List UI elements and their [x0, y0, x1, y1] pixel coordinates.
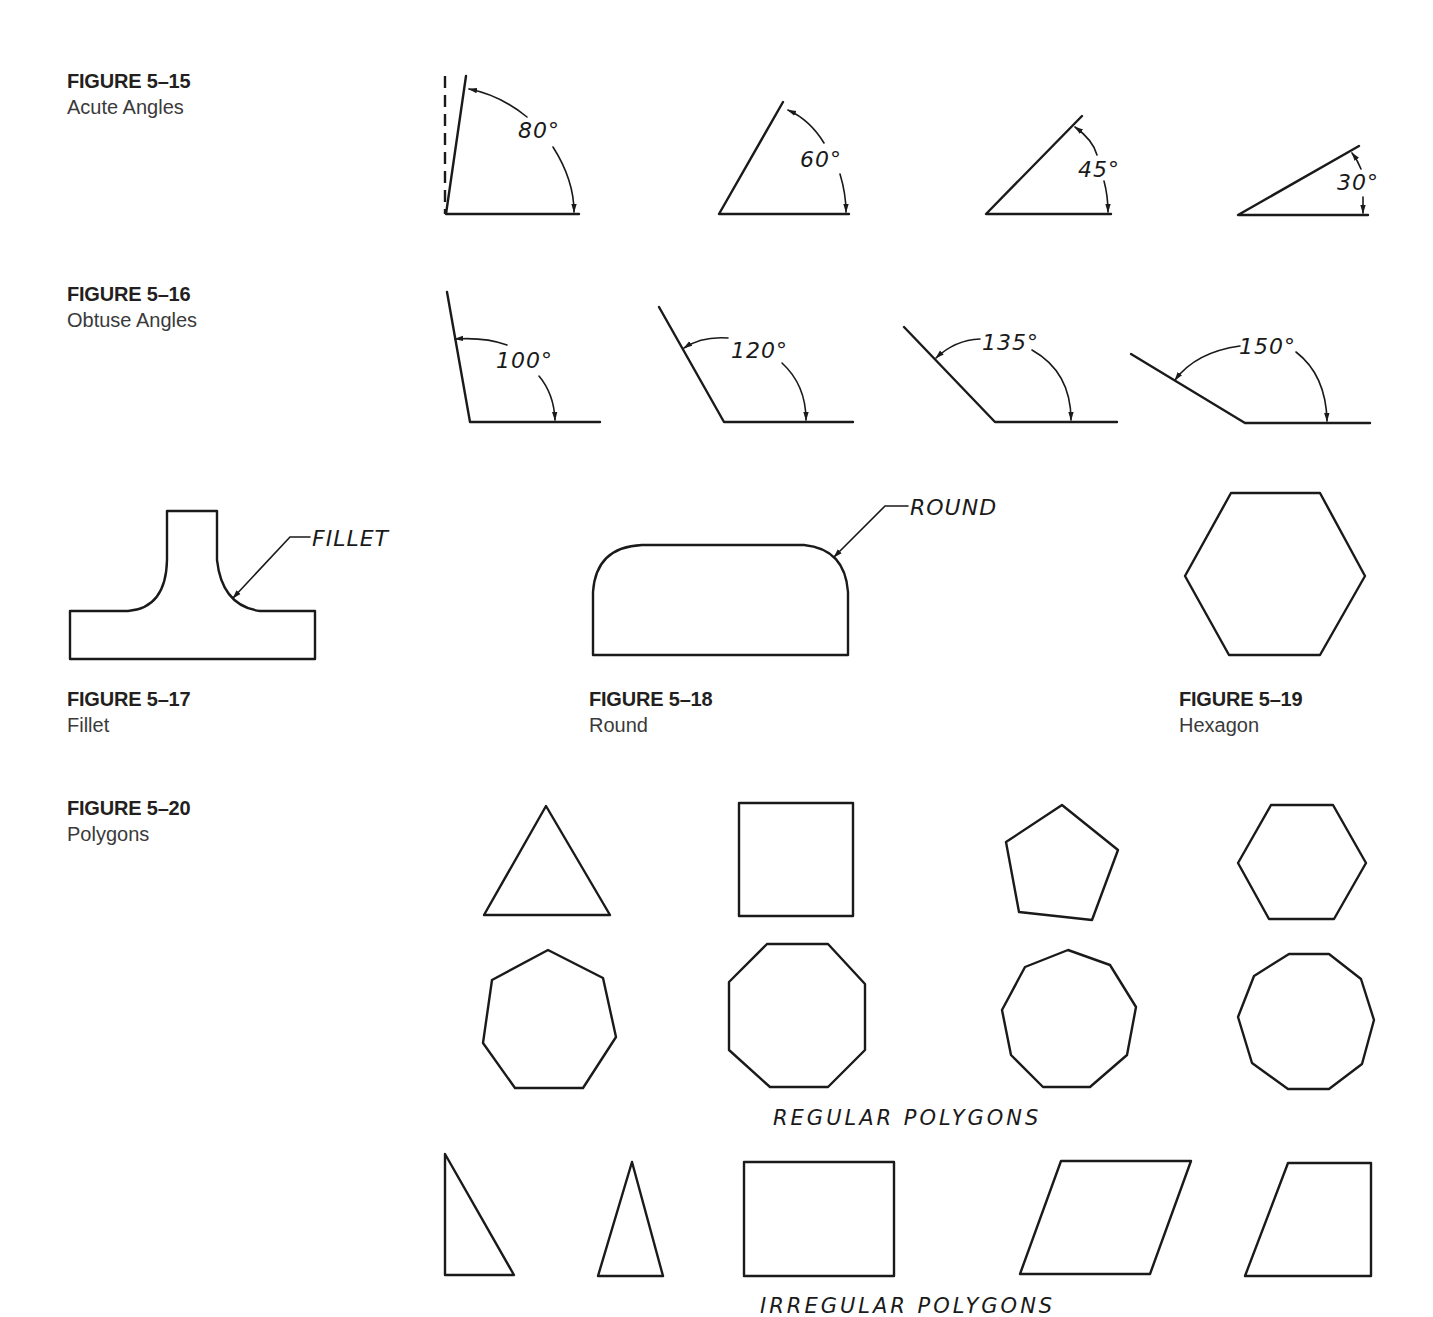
- angle-sides: [1131, 354, 1370, 423]
- obtuse-angle-135: 135°: [904, 327, 1117, 422]
- angle-label: 60°: [800, 147, 842, 172]
- round-part: ROUND: [593, 495, 997, 655]
- dimension-arc-top: [455, 339, 507, 345]
- dimension-arc-top: [1175, 346, 1240, 380]
- angle-sides: [446, 76, 579, 214]
- regular-polygons: REGULAR POLYGONS: [483, 803, 1374, 1130]
- round-label: ROUND: [910, 495, 997, 520]
- dimension-arc-bottom: [840, 174, 846, 212]
- obtuse-angle-150: 150°: [1131, 334, 1370, 423]
- acute-angle-80: 80°: [445, 76, 579, 214]
- fillet-outline: [70, 511, 315, 659]
- dimension-arc-bottom: [1296, 352, 1327, 421]
- angle-label: 135°: [982, 330, 1039, 355]
- dimension-arc-top: [1352, 153, 1361, 169]
- regular-square: [739, 803, 853, 916]
- dimension-arc-bottom: [782, 363, 806, 420]
- angle-label: 45°: [1078, 157, 1120, 182]
- dimension-arc-top: [788, 110, 824, 143]
- dimension-arc-bottom: [539, 376, 555, 420]
- dimension-arc-top: [469, 89, 527, 117]
- angle-sides: [659, 307, 853, 422]
- dimension-arc-top: [936, 339, 980, 358]
- technical-drawing-canvas: 80° 60° 45° 30° 100° 120° 135°: [0, 0, 1433, 1317]
- regular-octagon: [729, 944, 865, 1087]
- irregular-parallelogram: [1020, 1161, 1191, 1274]
- acute-angle-30: 30°: [1238, 146, 1379, 215]
- fillet-part: FILLET: [70, 511, 390, 659]
- round-leader-line: [834, 506, 908, 557]
- regular-pentagon: [1006, 805, 1118, 920]
- irregular-trapezoid: [1245, 1163, 1371, 1276]
- regular-triangle: [484, 806, 610, 915]
- regular-hexagon: [1238, 805, 1366, 919]
- angle-label: 100°: [496, 348, 553, 373]
- irregular-polygons-label: IRREGULAR POLYGONS: [760, 1294, 1055, 1317]
- round-outline: [593, 545, 848, 655]
- regular-decagon: [1238, 954, 1374, 1089]
- acute-angle-45: 45°: [986, 116, 1120, 214]
- regular-heptagon: [483, 950, 616, 1088]
- irregular-isosceles-triangle: [598, 1162, 663, 1276]
- irregular-polygons: IRREGULAR POLYGONS: [445, 1154, 1371, 1317]
- regular-polygons-label: REGULAR POLYGONS: [773, 1106, 1041, 1130]
- dimension-arc-top: [684, 338, 728, 348]
- obtuse-angle-120: 120°: [659, 307, 853, 422]
- obtuse-angle-100: 100°: [447, 292, 600, 422]
- acute-angle-60: 60°: [719, 102, 849, 214]
- dimension-arc-bottom: [553, 147, 574, 212]
- fillet-label: FILLET: [312, 526, 390, 551]
- angle-label: 150°: [1239, 334, 1296, 359]
- fillet-leader-line: [233, 537, 310, 598]
- dimension-arc-top: [1075, 127, 1097, 155]
- irregular-right-triangle: [445, 1154, 514, 1275]
- hexagon: [1185, 493, 1365, 655]
- regular-nonagon: [1002, 950, 1136, 1087]
- angle-label: 80°: [518, 118, 560, 143]
- dimension-arc-bottom: [1104, 181, 1108, 212]
- irregular-rectangle: [744, 1162, 894, 1276]
- dimension-arc-bottom: [1032, 350, 1071, 420]
- angle-label: 30°: [1337, 170, 1379, 195]
- angle-label: 120°: [731, 338, 788, 363]
